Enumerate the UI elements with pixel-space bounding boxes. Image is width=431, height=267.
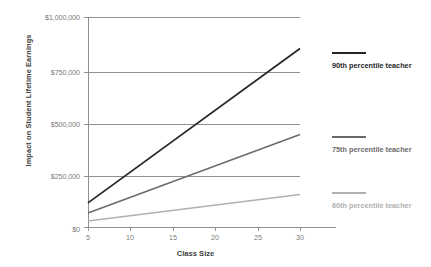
legend-label-60th: 60th percentile teacher <box>332 201 412 210</box>
series-lines <box>0 0 431 267</box>
chart-container: Impact on Student Lifetime Earnings $0 $… <box>0 0 431 267</box>
legend-label-75th: 75th percentile teacher <box>332 145 412 154</box>
legend-label-90th: 90th percentile teacher <box>332 61 412 70</box>
series-line-75th-percentile-teacher <box>88 135 300 213</box>
legend-swatch-90th <box>332 52 366 54</box>
legend-swatch-75th <box>332 136 366 138</box>
legend-swatch-60th <box>332 192 366 194</box>
series-line-90th-percentile-teacher <box>88 49 300 203</box>
series-line-60th-percentile-teacher <box>88 194 300 220</box>
